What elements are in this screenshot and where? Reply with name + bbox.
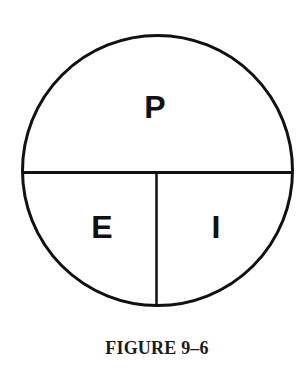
- figure-caption: FIGURE 9–6: [0, 338, 304, 359]
- pei-circle-diagram: P E I: [0, 0, 304, 377]
- region-label-e: E: [91, 209, 112, 245]
- region-label-p: P: [144, 89, 165, 125]
- region-label-i: I: [212, 209, 221, 245]
